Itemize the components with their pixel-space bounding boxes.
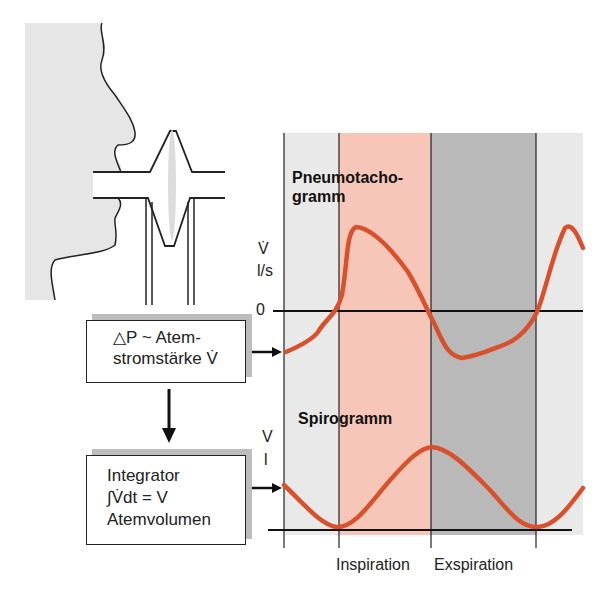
spiro-ylabel-2: l <box>264 451 268 469</box>
integrator-box: Integrator ∫V̇dt = V Atemvolumen <box>86 455 246 545</box>
sensor-box: △P ~ Atem- stromstärke V̇ <box>86 320 246 383</box>
pneumo-zero-label: 0 <box>256 301 265 319</box>
pneumo-ylabel-1: V̇ <box>258 240 269 258</box>
spiro-ylabel-1: V <box>262 428 273 446</box>
pneumo-title-1: Pneumotacho- <box>292 168 403 187</box>
pneumo-ylabel-2: l/s <box>257 262 273 280</box>
face-silhouette <box>25 23 135 300</box>
integrator-line2: ∫V̇dt = V <box>107 488 168 508</box>
sensor-line1: △P ~ Atem- <box>113 328 201 348</box>
spiro-title: Spirogramm <box>298 409 392 428</box>
pneumo-title-2: gramm <box>292 187 345 206</box>
sensor-line2: stromstärke V̇ <box>113 349 218 369</box>
integrator-line3: Atemvolumen <box>107 510 211 530</box>
integrator-line1: Integrator <box>107 466 180 486</box>
expiration-label: Exspiration <box>434 556 513 574</box>
inspiration-label: Inspiration <box>336 556 410 574</box>
